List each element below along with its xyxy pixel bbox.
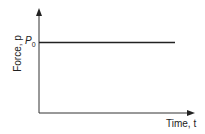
p0-label: P0 [25,35,36,48]
y-axis-label: Force, p [12,29,23,79]
y-axis-arrow-icon [36,8,42,16]
x-axis-label: Time, t [166,118,196,129]
x-axis-arrow-icon [187,110,195,116]
chart-canvas [0,0,205,134]
